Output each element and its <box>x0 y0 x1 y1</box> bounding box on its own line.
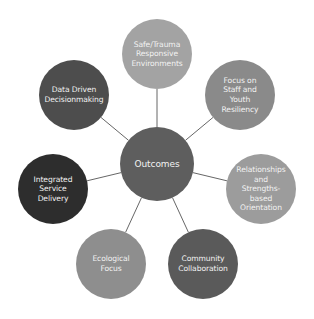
node-safe-trauma-responsive-environments: Safe/Trauma Responsive Environments <box>122 19 192 89</box>
connector-line <box>101 117 129 140</box>
node-focus-on-staff-and-youth-resiliency: Focus on Staff and Youth Resiliency <box>205 60 275 130</box>
node-label: Safe/Trauma Responsive Environments <box>131 40 182 69</box>
node-community-collaboration: Community Collaboration <box>168 229 238 299</box>
connector-line <box>172 198 188 233</box>
connector-line <box>87 173 121 181</box>
connector-line <box>185 117 213 140</box>
node-relationships-strengths-based-orientation: Relationships and Strengths- based Orien… <box>226 154 296 224</box>
node-label: Relationships and Strengths- based Orien… <box>236 165 285 213</box>
center-node-outcomes: Outcomes <box>120 127 194 201</box>
outcomes-diagram: Outcomes Safe/Trauma Responsive Environm… <box>0 0 314 319</box>
connector-line <box>193 173 227 181</box>
node-label: Data Driven Decisionmaking <box>44 85 103 104</box>
node-label: Focus on Staff and Youth Resiliency <box>221 76 258 114</box>
node-integrated-service-delivery: Integrated Service Delivery <box>18 154 88 224</box>
node-label: Integrated Service Delivery <box>34 175 73 204</box>
connector-line <box>126 198 142 233</box>
node-label: Community Collaboration <box>178 254 227 273</box>
center-node-label: Outcomes <box>135 159 180 170</box>
node-ecological-focus: Ecological Focus <box>76 229 146 299</box>
node-label: Ecological Focus <box>92 254 129 273</box>
node-data-driven-decisionmaking: Data Driven Decisionmaking <box>39 60 109 130</box>
